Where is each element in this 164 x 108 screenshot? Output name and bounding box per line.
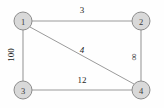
weight-label-3-4: 12 bbox=[78, 75, 87, 85]
node-4[interactable]: 4 bbox=[132, 81, 150, 99]
node-2[interactable]: 2 bbox=[132, 12, 150, 30]
node-1[interactable]: 1 bbox=[14, 12, 32, 30]
weight-label-1-3: 100 bbox=[6, 48, 16, 62]
weight-label-1-4: 4 bbox=[80, 45, 85, 55]
node-1-label: 1 bbox=[21, 17, 25, 27]
graph-diagram: 3 100 4 ∞ 12 1 2 3 4 bbox=[0, 0, 164, 108]
node-3-label: 3 bbox=[21, 86, 25, 96]
graph-canvas: 3 100 4 ∞ 12 1 2 3 4 bbox=[0, 0, 164, 108]
weight-label-1-2: 3 bbox=[80, 5, 85, 15]
weight-label-2-4: ∞ bbox=[128, 53, 139, 60]
node-3[interactable]: 3 bbox=[14, 81, 32, 99]
node-2-label: 2 bbox=[139, 17, 143, 27]
